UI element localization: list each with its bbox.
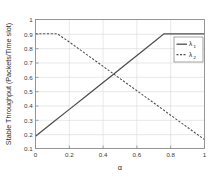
legend[interactable]: λ 1 λ 2	[174, 37, 203, 62]
y-tick-label: 0.3	[24, 117, 33, 124]
y-tick-label: 0.1	[24, 145, 33, 152]
y-tick-label: 0.8	[24, 45, 33, 52]
y-tick-label: 0.4	[24, 102, 33, 109]
y-tick-label: 1	[29, 16, 33, 23]
x-tick-label: 0.6	[133, 151, 142, 158]
y-axis-title: Stable Throughput (Packets/Time slot)	[4, 23, 13, 145]
y-tick-label: 0.2	[24, 131, 33, 138]
x-tick-label: 0.2	[65, 151, 74, 158]
x-tick-label: 0.4	[99, 151, 108, 158]
y-tick-label: 0.5	[24, 88, 33, 95]
figure-container: 0.1 0.2 0.3 0.4 0.5 0.6 0.7 0.8 0.9 1 0 …	[0, 0, 215, 177]
chart-canvas: 0.1 0.2 0.3 0.4 0.5 0.6 0.7 0.8 0.9 1 0 …	[0, 0, 215, 177]
x-tick-label: 0	[34, 151, 38, 158]
y-tick-label: 0.7	[24, 59, 33, 66]
y-tick-label: 0.6	[24, 74, 33, 81]
x-tick-label: 1	[203, 151, 207, 158]
x-axis-title: α	[118, 163, 123, 172]
x-tick-label: 0.8	[166, 151, 175, 158]
y-tick-label: 0.9	[24, 31, 33, 38]
